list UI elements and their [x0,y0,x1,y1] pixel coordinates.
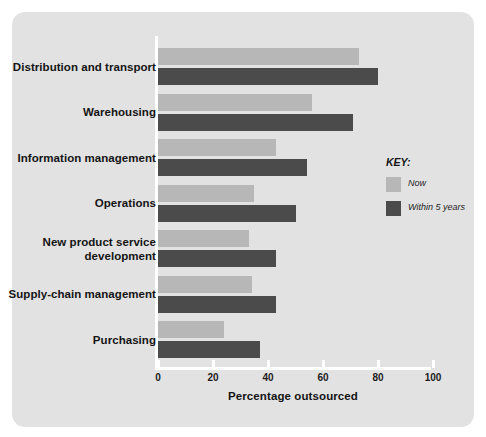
bar-within-5-years [158,250,276,267]
legend-entries: NowWithin 5 years [386,177,472,216]
category-label: Operations [0,196,156,210]
category-label: Distribution and transport [0,60,156,74]
category-label: New product service development [0,235,156,263]
x-axis-tick-label: 100 [413,372,453,383]
x-axis-tick [157,360,160,368]
legend: KEY: NowWithin 5 years [386,156,472,225]
x-axis-tick-label: 20 [193,372,233,383]
bar-within-5-years [158,159,307,176]
bar-within-5-years [158,341,260,358]
category-label: Information management [0,151,156,165]
bar-within-5-years [158,205,296,222]
bar-now [158,48,359,65]
legend-label: Within 5 years [408,201,465,213]
legend-label: Now [408,177,426,189]
bar-within-5-years [158,114,353,131]
bar-within-5-years [158,68,378,85]
legend-title: KEY: [386,156,472,168]
bar-now [158,276,252,293]
bar-now [158,230,249,247]
category-label: Purchasing [0,333,156,347]
chart-figure: 020406080100 Distribution and transportW… [0,0,486,437]
x-axis-tick [432,360,435,368]
category-label: Supply-chain management [0,287,156,301]
bar-within-5-years [158,296,276,313]
legend-swatch-icon [386,201,401,216]
x-axis-tick-label: 0 [138,372,178,383]
legend-swatch-icon [386,177,401,192]
bar-now [158,139,276,156]
bar-now [158,321,224,338]
x-axis-tick-label: 60 [303,372,343,383]
category-label: Warehousing [0,105,156,119]
chart-panel: 020406080100 Distribution and transportW… [12,12,474,427]
x-axis-tick [212,360,215,368]
legend-item-now: Now [386,177,472,192]
scan-top-artifact [0,0,486,11]
x-axis-tick [322,360,325,368]
x-axis-title: Percentage outsourced [155,390,431,402]
bar-now [158,185,254,202]
x-axis-tick [377,360,380,368]
x-axis-line [155,367,431,370]
x-axis-tick [267,360,270,368]
x-axis-tick-label: 40 [248,372,288,383]
x-axis-tick-label: 80 [358,372,398,383]
bar-now [158,94,312,111]
legend-item-within-5-years: Within 5 years [386,201,472,216]
